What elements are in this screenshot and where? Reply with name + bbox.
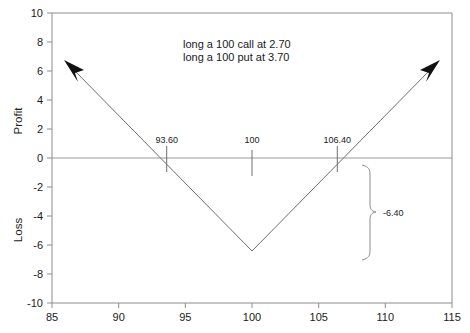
x-tick-label-90: 90 [113,311,125,323]
strategy-note: long a 100 call at 2.70 long a 100 put a… [183,38,291,63]
strike-center-label: 100 [244,135,259,145]
x-tick-label-115: 115 [443,311,461,323]
x-tick-label-100: 100 [243,311,261,323]
strategy-note-line-1: long a 100 call at 2.70 [183,38,291,50]
strategy-note-line-2: long a 100 put at 3.70 [183,51,289,63]
y-axis-title-loss: Loss [12,218,24,243]
breakeven-lower-label: 93.60 [155,135,178,145]
y-tick-label-5: 0 [37,152,43,164]
y-tick-label-0: -10 [27,297,43,309]
y-tick-label-4: -2 [33,181,43,193]
y-tick-label-7: 4 [37,94,43,106]
chart-container: 10 8 6 4 2 0 -2 -4 -6 -8 -10 85 90 95 10… [0,0,470,333]
y-tick-label-6: 2 [37,123,43,135]
y-axis-title-profit: Profit [12,107,24,135]
y-tick-label-2: -6 [33,239,43,251]
x-tick-label-110: 110 [377,311,395,323]
y-tick-label-3: -4 [33,210,43,222]
payoff-diagram: 10 8 6 4 2 0 -2 -4 -6 -8 -10 85 90 95 10… [0,0,470,333]
max-loss-brace-label: -6.40 [383,208,404,218]
breakeven-upper-label: 106.40 [324,135,352,145]
x-tick-label-105: 105 [310,311,328,323]
y-tick-label-1: -8 [33,268,43,280]
y-tick-label-9: 8 [37,36,43,48]
x-tick-label-95: 95 [179,311,191,323]
y-tick-label-10: 10 [31,7,43,19]
y-tick-label-8: 6 [37,65,43,77]
x-tick-label-85: 85 [46,311,58,323]
